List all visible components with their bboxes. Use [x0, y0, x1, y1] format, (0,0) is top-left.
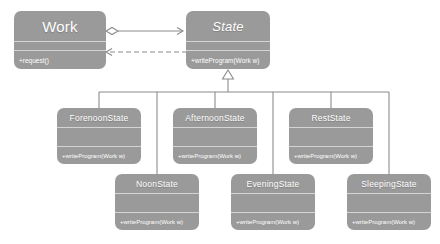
class-name-afternoon-state: AfternoonState: [173, 108, 257, 127]
class-operations-state: +writeProgram(Work w): [186, 51, 270, 69]
class-name-sleeping-state: SleepingState: [347, 174, 431, 193]
class-attributes-state: [186, 42, 270, 50]
class-operations-noon-state: +writeProgram(Work w): [115, 213, 199, 230]
edge-work-aggregates-state[interactable]: [106, 28, 183, 35]
hollow-triangle-icon: [223, 70, 234, 79]
class-attributes-sleeping-state: [347, 194, 431, 212]
edge-state-depends-on-work[interactable]: [106, 49, 186, 56]
class-operations-forenoon-state: +writeProgram(Work w): [57, 147, 141, 164]
class-box-sleeping-state[interactable]: SleepingState +writeProgram(Work w): [347, 174, 431, 230]
class-name-noon-state: NoonState: [115, 174, 199, 193]
class-box-noon-state[interactable]: NoonState +writeProgram(Work w): [115, 174, 199, 230]
class-box-rest-state[interactable]: RestState +writeProgram(Work w): [289, 108, 373, 164]
open-arrow-icon: [106, 49, 112, 56]
class-operations-work: +request(): [14, 51, 106, 69]
class-operations-sleeping-state: +writeProgram(Work w): [347, 213, 431, 230]
open-arrow-icon: [177, 28, 183, 35]
class-operations-rest-state: +writeProgram(Work w): [289, 147, 373, 164]
class-attributes-noon-state: [115, 194, 199, 212]
class-name-forenoon-state: ForenoonState: [57, 108, 141, 127]
uml-diagram-canvas: State : aggregation ===== -->: [0, 0, 440, 244]
class-name-rest-state: RestState: [289, 108, 373, 127]
class-name-state: State: [186, 11, 270, 41]
class-box-evening-state[interactable]: EveningState +writeProgram(Work w): [231, 174, 315, 230]
class-attributes-afternoon-state: [173, 128, 257, 146]
class-box-forenoon-state[interactable]: ForenoonState +writeProgram(Work w): [57, 108, 141, 164]
class-attributes-work: [14, 42, 106, 50]
class-attributes-forenoon-state: [57, 128, 141, 146]
class-operations-afternoon-state: +writeProgram(Work w): [173, 147, 257, 164]
class-attributes-evening-state: [231, 194, 315, 212]
class-attributes-rest-state: [289, 128, 373, 146]
hollow-diamond-icon: [106, 28, 118, 35]
class-box-work[interactable]: Work +request(): [14, 11, 106, 69]
class-name-work: Work: [14, 11, 106, 41]
class-box-state[interactable]: State +writeProgram(Work w): [186, 11, 270, 69]
class-name-evening-state: EveningState: [231, 174, 315, 193]
class-box-afternoon-state[interactable]: AfternoonState +writeProgram(Work w): [173, 108, 257, 164]
class-operations-evening-state: +writeProgram(Work w): [231, 213, 315, 230]
